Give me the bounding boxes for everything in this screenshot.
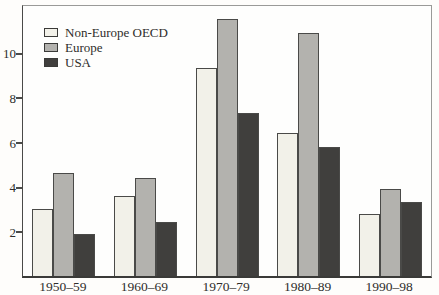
legend-item-europe: Europe <box>44 40 168 55</box>
legend-swatch-icon <box>44 28 58 37</box>
x-tick-label-3: 1970–79 <box>185 279 267 295</box>
y-tick-mark-10 <box>16 53 23 55</box>
bar-non-europe-oecd-4 <box>277 133 298 276</box>
bar-usa-5 <box>401 202 422 276</box>
bar-usa-2 <box>156 222 177 276</box>
bar-non-europe-oecd-3 <box>196 68 217 276</box>
bar-non-europe-oecd-5 <box>359 214 380 276</box>
bar-europe-3 <box>217 19 238 276</box>
y-tick-label-4: 4 <box>0 181 16 194</box>
legend-swatch-icon <box>44 43 58 52</box>
y-tick-mark-2 <box>16 231 23 233</box>
y-tick-label-2: 2 <box>0 226 16 239</box>
x-tick-label-1: 1950–59 <box>22 279 104 295</box>
bar-chart: 246810 1950–591960–691970–791980–891990–… <box>0 0 439 295</box>
bar-europe-4 <box>298 33 319 276</box>
bar-europe-2 <box>135 178 156 276</box>
y-tick-label-10: 10 <box>0 47 16 60</box>
x-tick-label-4: 1980–89 <box>267 279 349 295</box>
bar-usa-4 <box>319 147 340 276</box>
legend-swatch-icon <box>44 58 58 67</box>
y-tick-label-6: 6 <box>0 137 16 150</box>
x-tick-label-2: 1960–69 <box>103 279 185 295</box>
x-tick-label-5: 1990–98 <box>348 279 430 295</box>
bar-usa-1 <box>74 234 95 276</box>
bar-europe-1 <box>53 173 74 276</box>
legend-label: Non-Europe OECD <box>65 26 168 40</box>
bar-non-europe-oecd-2 <box>114 196 135 276</box>
legend-label: Europe <box>65 41 103 55</box>
legend-item-non-europe-oecd: Non-Europe OECD <box>44 25 168 40</box>
legend-item-usa: USA <box>44 55 168 70</box>
y-tick-mark-4 <box>16 187 23 189</box>
legend: Non-Europe OECDEuropeUSA <box>44 25 168 70</box>
legend-label: USA <box>65 56 91 70</box>
bar-usa-3 <box>238 113 259 276</box>
y-tick-mark-8 <box>16 97 23 99</box>
bar-europe-5 <box>380 189 401 276</box>
y-tick-label-8: 8 <box>0 92 16 105</box>
y-tick-mark-6 <box>16 142 23 144</box>
bar-non-europe-oecd-1 <box>32 209 53 276</box>
